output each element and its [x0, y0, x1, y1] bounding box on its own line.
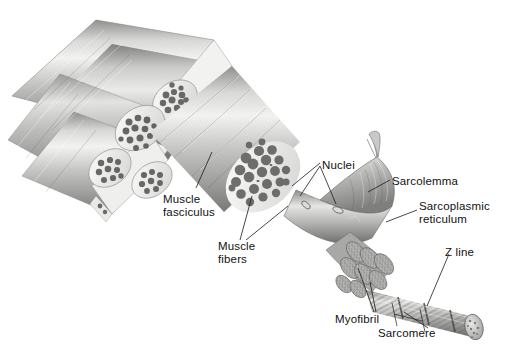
label-muscle-fibers: Muscle fibers [218, 240, 255, 265]
label-sarcoplasmic-reticulum: Sarcoplasmic reticulum [419, 200, 490, 225]
label-z-line: Z line [445, 246, 474, 259]
label-sarcolemma: Sarcolemma [392, 175, 458, 188]
label-myofibril: Myofibril [335, 313, 379, 326]
label-muscle-fasciculus: Muscle fasciculus [163, 193, 215, 218]
label-nuclei: Nuclei [322, 159, 355, 172]
label-sarcomere: Sarcomere [378, 327, 436, 340]
muscle-anatomy-figure: Muscle fasciculus Muscle fibers Nuclei S… [0, 0, 509, 354]
